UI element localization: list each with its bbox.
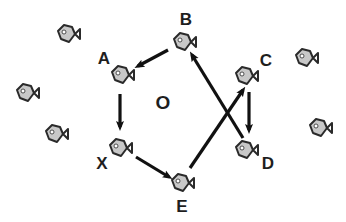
- fish-icon: [310, 119, 332, 136]
- fish-layer: [17, 25, 332, 191]
- fish-icon: [236, 141, 258, 158]
- fish-icon: [46, 125, 68, 142]
- fish-icon: [172, 174, 194, 191]
- fish-icon: [112, 66, 134, 83]
- fish-icon: [174, 33, 196, 50]
- edges-layer: [120, 50, 249, 177]
- node-label-x: X: [96, 155, 107, 172]
- fish-network-diagram: ABCDXE O: [0, 0, 346, 222]
- node-label-a: A: [98, 50, 110, 67]
- fish-icon: [296, 49, 318, 66]
- node-label-d: D: [262, 155, 274, 172]
- node-label-e: E: [176, 198, 187, 215]
- center-label-o: O: [156, 93, 171, 112]
- node-label-b: B: [180, 11, 192, 28]
- fish-icon: [110, 139, 132, 156]
- arrow-b-to-a: [138, 50, 168, 66]
- node-label-c: C: [260, 52, 272, 69]
- diagram-graphics: [0, 0, 346, 222]
- fish-icon: [236, 67, 258, 84]
- arrow-x-to-e: [136, 157, 169, 177]
- arrow-e-to-c: [190, 90, 243, 168]
- fish-icon: [17, 84, 39, 101]
- fish-icon: [58, 25, 80, 42]
